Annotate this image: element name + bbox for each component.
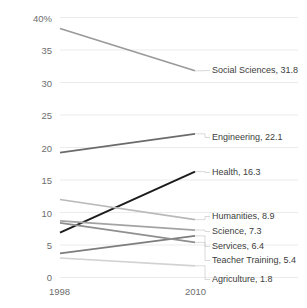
series-line-engineering [60, 134, 195, 153]
series-label-humanities: Humanities, 8.9 [212, 212, 275, 221]
leader-health [195, 172, 210, 173]
leader-science [195, 230, 210, 231]
leader-humanities [195, 217, 210, 220]
series-label-science: Science, 7.3 [212, 227, 262, 236]
series-label-teacher-training: Teacher Training, 5.4 [212, 256, 296, 265]
x-tick-1998: 1998 [49, 287, 70, 297]
series-label-agriculture: Agriculture, 1.8 [212, 275, 273, 284]
series-label-engineering: Engineering, 22.1 [212, 133, 283, 142]
leader-engineering [195, 134, 210, 138]
series-label-health: Health, 16.3 [212, 168, 261, 177]
series-line-agriculture [60, 258, 195, 266]
x-tick-2010: 2010 [185, 287, 206, 297]
series-label-social-sciences: Social Sciences, 31.8 [212, 66, 298, 75]
line-chart: 40% 35 30 25 20 15 10 5 0 1998 2010 Soci… [0, 0, 307, 308]
leader-lines [195, 71, 210, 280]
series-label-services: Services, 6.4 [212, 242, 264, 251]
